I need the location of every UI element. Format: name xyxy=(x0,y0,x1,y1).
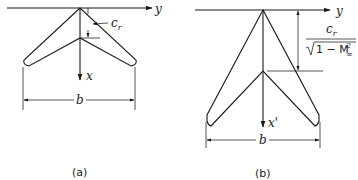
x-prime-axis-label: x' xyxy=(268,116,278,130)
y-axis-label: y xyxy=(335,4,343,18)
mach-subscript: ∞ xyxy=(346,50,353,59)
caption-b: (b) xyxy=(255,167,271,180)
chord-fraction-label: cr 1 − M 2 ∞ xyxy=(306,22,356,59)
panel-a: y x cr b (a) xyxy=(7,2,162,179)
span-label: b xyxy=(259,133,267,147)
chord-label: cr xyxy=(111,16,123,32)
fraction-numerator: cr xyxy=(326,22,338,38)
chord-leader-arrow xyxy=(93,23,108,24)
mach-exponent: 2 xyxy=(345,41,351,50)
span-label: b xyxy=(76,93,84,107)
fraction-denominator: 1 − M xyxy=(316,43,349,56)
swept-wing-diagram: y x cr b (a) y x' cr xyxy=(0,0,358,180)
y-axis-label: y xyxy=(154,2,162,16)
panel-b: y x' cr 1 − M 2 ∞ b (b) xyxy=(195,4,356,180)
caption-a: (a) xyxy=(72,166,87,179)
x-axis-label: x xyxy=(86,69,93,83)
